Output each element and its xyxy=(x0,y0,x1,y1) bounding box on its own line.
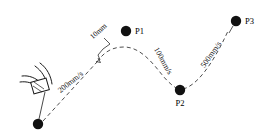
node-label-p3: P3 xyxy=(245,16,254,26)
diagram-canvas: P1 P2 P3 200mm/s 100mm/s 500mm/s 10mm xyxy=(0,0,271,140)
dimension-label-clearance: 10mm xyxy=(88,21,109,41)
node-label-p2: P2 xyxy=(176,98,185,108)
node-p1[interactable] xyxy=(121,26,131,36)
node-p2[interactable] xyxy=(175,85,185,95)
node-p3[interactable] xyxy=(231,16,241,26)
dimension-leader-line xyxy=(98,38,110,60)
speed-label-p1-to-p2: 100mm/s xyxy=(152,46,174,76)
trajectory-diagram: P1 P2 P3 200mm/s 100mm/s 500mm/s 10mm xyxy=(0,0,271,140)
gripper-icon xyxy=(20,63,52,94)
node-label-p1: P1 xyxy=(135,26,144,36)
node-start[interactable] xyxy=(33,119,43,129)
tool-to-start-connector xyxy=(39,92,45,119)
speed-label-start-to-p1: 200mm/s xyxy=(56,69,85,95)
node-p3-tick xyxy=(229,26,233,33)
speed-label-p2-to-p3: 500mm/s xyxy=(199,40,223,70)
path-segment-start-to-p1 xyxy=(43,62,97,121)
